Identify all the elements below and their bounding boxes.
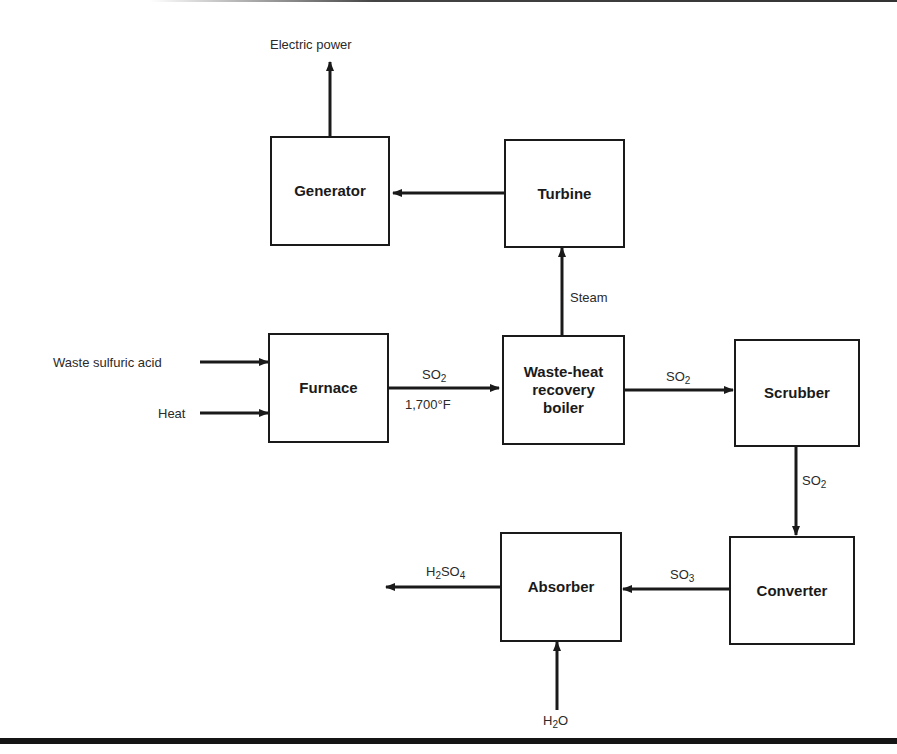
boiler-label-line3: boiler <box>543 399 584 417</box>
h-text: H <box>543 713 552 728</box>
label-so2-scrubber: SO2 <box>802 473 826 488</box>
node-furnace: Furnace <box>268 333 389 443</box>
subscript-4: 4 <box>460 570 466 581</box>
converter-label: Converter <box>757 582 828 600</box>
node-converter: Converter <box>729 536 855 645</box>
so2-text: SO <box>422 367 441 382</box>
so2-subscript: 2 <box>821 479 827 490</box>
node-scrubber: Scrubber <box>734 339 860 447</box>
label-steam: Steam <box>570 290 608 305</box>
node-absorber: Absorber <box>500 532 622 642</box>
generator-label: Generator <box>294 182 366 200</box>
h-text: H <box>426 564 435 579</box>
so2-subscript: 2 <box>441 373 447 384</box>
absorber-label: Absorber <box>528 578 595 596</box>
so2-text: SO <box>802 473 821 488</box>
label-h2so4: H2SO4 <box>426 564 465 579</box>
so-text: SO <box>441 564 460 579</box>
o-text: O <box>558 713 568 728</box>
boiler-label-line2: recovery <box>532 381 595 399</box>
so2-subscript: 2 <box>685 375 691 386</box>
turbine-label: Turbine <box>538 185 592 203</box>
label-heat: Heat <box>158 406 185 421</box>
node-generator: Generator <box>270 136 390 246</box>
label-so2-furnace: SO2 <box>422 367 446 382</box>
boiler-label-line1: Waste-heat <box>524 363 603 381</box>
node-turbine: Turbine <box>504 139 625 248</box>
so2-text: SO <box>666 369 685 384</box>
label-temperature: 1,700°F <box>405 397 451 412</box>
label-so2-boiler: SO2 <box>666 369 690 384</box>
label-so3: SO3 <box>670 567 694 582</box>
so3-text: SO <box>670 567 689 582</box>
label-electric-power: Electric power <box>270 37 352 52</box>
node-waste-heat-boiler: Waste-heat recovery boiler <box>502 335 625 445</box>
bottom-rule <box>0 738 897 744</box>
label-h2o: H2O <box>543 713 568 728</box>
furnace-label: Furnace <box>299 379 357 397</box>
label-waste-sulfuric-acid: Waste sulfuric acid <box>53 355 162 370</box>
so3-subscript: 3 <box>689 573 695 584</box>
scrubber-label: Scrubber <box>764 384 830 402</box>
